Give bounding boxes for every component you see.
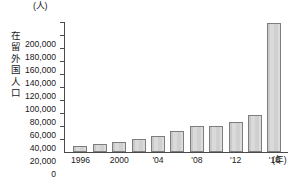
x-axis-line [64,152,288,153]
y-axis-tick-label: 100,000 [25,105,56,114]
x-axis-tick-label: '08 [191,155,202,165]
x-axis-tick-label: '12 [230,155,241,165]
y-axis-tick-label: 120,000 [25,92,56,101]
y-axis-tick-label: 140,000 [25,79,56,88]
bar [248,115,262,152]
y-axis-tick-mark [60,100,64,101]
bar [112,142,126,152]
y-axis-tick-labels: 020,00040,00060,00080,000100,000120,0001… [0,22,62,152]
y-axis-tick-label: 180,000 [25,53,56,62]
y-axis-tick-mark [60,87,64,88]
bar [132,139,146,152]
y-axis-tick-mark [60,139,64,140]
y-axis-tick-label: 80,000 [30,118,56,127]
bar [73,146,87,152]
y-axis-tick-label: 20,000 [30,157,56,166]
x-axis-tick-label: 1996 [71,155,90,165]
bar [151,136,165,152]
bar [170,131,184,152]
y-axis-tick-mark [60,35,64,36]
y-axis-tick-label: 160,000 [25,66,56,75]
x-axis-tick-label: 2000 [110,155,129,165]
bar [190,126,204,152]
bar-chart: (人) 在 留 外 国 人 口 020,00040,00060,00080,00… [0,0,298,185]
bar [229,122,243,152]
x-axis-unit-label: (年) [272,155,287,165]
y-axis-tick-label: 40,000 [30,144,56,153]
y-axis-tick-label: 0 [51,170,56,179]
bar [93,144,107,152]
y-axis-tick-label: 200,000 [25,40,56,49]
y-axis-tick-mark [60,48,64,49]
bar [267,23,281,152]
x-axis-tick-labels: 19962000'04'08'12'16 [64,155,298,169]
bar [209,126,223,152]
y-axis-unit-label: (人) [33,1,47,12]
x-axis-tick-label: '04 [152,155,163,165]
y-axis-tick-mark [60,126,64,127]
bar-series [64,22,288,152]
y-axis-tick-mark [60,113,64,114]
y-axis-tick-label: 60,000 [30,131,56,140]
y-axis-tick-mark [60,74,64,75]
plot-area [64,22,288,152]
y-axis-tick-mark [60,61,64,62]
y-axis-tick-mark [60,22,64,23]
